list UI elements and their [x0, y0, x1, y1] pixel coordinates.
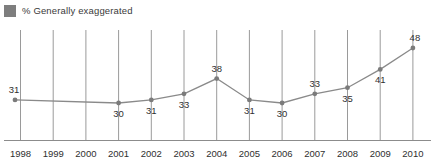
point-label-2002: 31	[146, 105, 157, 116]
data-point-2007[interactable]	[312, 91, 317, 96]
point-label-2008: 35	[342, 93, 353, 104]
data-point-2010[interactable]	[411, 46, 416, 51]
data-point-2003[interactable]	[182, 91, 187, 96]
data-point-markers	[13, 46, 416, 106]
data-point-2009[interactable]	[378, 67, 383, 72]
data-point-1998[interactable]	[13, 98, 18, 103]
x-tick-label-2007: 2007	[304, 148, 325, 159]
x-axis-tick-labels: 1998199920002001200220032004200520062007…	[10, 148, 424, 159]
x-tick-label-2004: 2004	[206, 148, 227, 159]
gridlines-group	[21, 30, 413, 141]
data-point-2001[interactable]	[116, 101, 121, 106]
line-chart-plot: 3130313338313033354148 19981999200020012…	[0, 0, 435, 168]
x-tick-label-1998: 1998	[10, 148, 31, 159]
point-label-1998: 31	[9, 84, 20, 95]
x-tick-label-1999: 1999	[43, 148, 64, 159]
x-tick-label-2006: 2006	[272, 148, 293, 159]
point-label-2001: 30	[113, 108, 124, 119]
data-point-2005[interactable]	[247, 98, 252, 103]
point-label-2010: 48	[410, 32, 421, 43]
chart-container: % Generally exaggerated 3130313338313033…	[0, 0, 435, 168]
data-point-labels: 3130313338313033354148	[9, 32, 420, 119]
point-label-2004: 38	[211, 63, 222, 74]
data-point-2006[interactable]	[280, 101, 285, 106]
x-tick-label-2009: 2009	[370, 148, 391, 159]
x-tick-label-2002: 2002	[141, 148, 162, 159]
point-label-2006: 30	[277, 108, 288, 119]
x-tick-label-2010: 2010	[402, 148, 423, 159]
x-tick-label-2008: 2008	[337, 148, 358, 159]
series-line-generally-exaggerated	[15, 48, 413, 103]
data-point-2008[interactable]	[345, 85, 350, 90]
data-point-2002[interactable]	[149, 98, 154, 103]
x-tick-label-2000: 2000	[75, 148, 96, 159]
point-label-2009: 41	[375, 74, 386, 85]
point-label-2007: 33	[310, 78, 321, 89]
x-tick-label-2005: 2005	[239, 148, 260, 159]
chart-svg: 3130313338313033354148 19981999200020012…	[0, 0, 435, 168]
x-tick-label-2001: 2001	[108, 148, 129, 159]
point-label-2005: 31	[244, 105, 255, 116]
x-tick-label-2003: 2003	[173, 148, 194, 159]
data-point-2004[interactable]	[214, 76, 219, 81]
point-label-2003: 33	[179, 99, 190, 110]
